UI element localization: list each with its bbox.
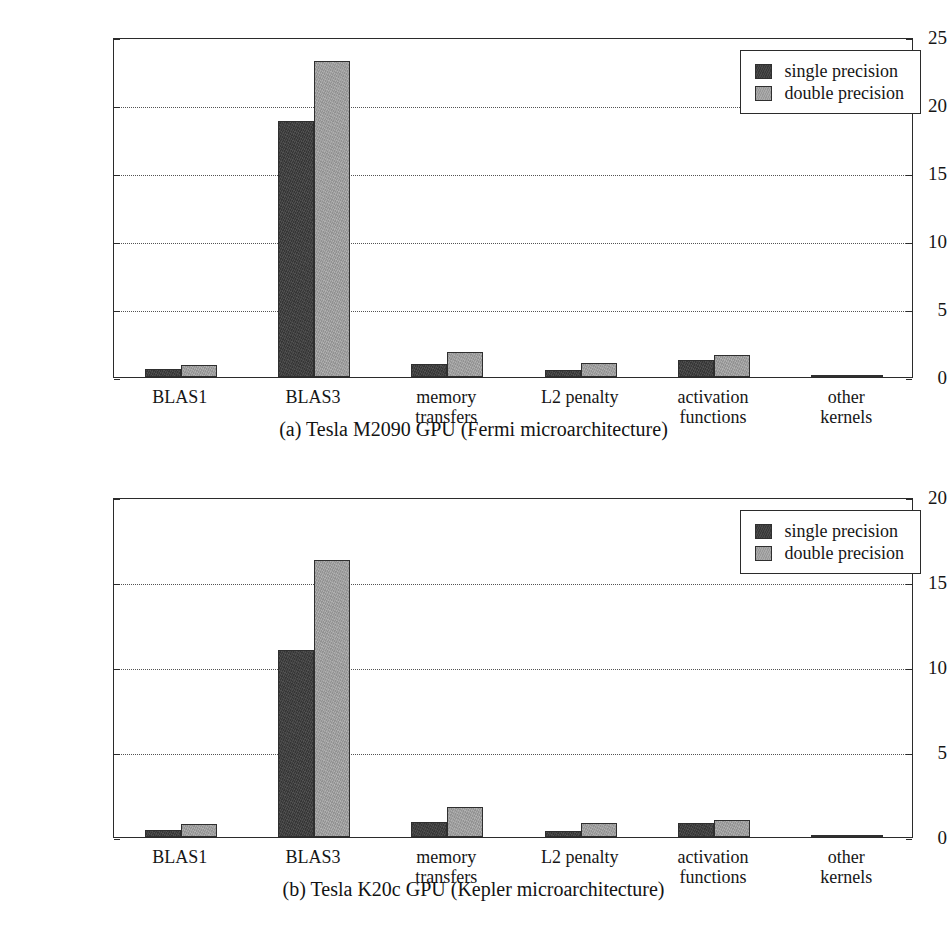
bar xyxy=(545,831,581,837)
legend-item: double precision xyxy=(755,82,904,104)
legend-label: double precision xyxy=(785,83,904,104)
chart-b: 05101520Execution time [s]BLAS1BLAS3memo… xyxy=(0,460,947,860)
y-tick-mark xyxy=(114,379,120,380)
bar xyxy=(314,560,350,837)
x-tick-label: BLAS1 xyxy=(113,387,246,407)
bar xyxy=(278,121,314,377)
bar xyxy=(714,355,750,377)
y-tick-label: 15 xyxy=(846,163,947,185)
y-tick-mark xyxy=(114,499,120,500)
bar xyxy=(678,360,714,377)
legend-swatch-single-precision xyxy=(755,64,772,79)
bar xyxy=(411,822,447,837)
bar xyxy=(181,824,217,837)
gridline-y xyxy=(114,175,912,176)
chart-a: 0510152025Execution time [s]BLAS1BLAS3me… xyxy=(0,0,947,400)
figure-two-gpu-execution-time-breakdown: 0510152025Execution time [s]BLAS1BLAS3me… xyxy=(0,0,947,931)
bar xyxy=(447,807,483,837)
legend-swatch-single-precision xyxy=(755,524,772,539)
bar xyxy=(811,835,847,837)
bar xyxy=(314,61,350,377)
y-tick-mark xyxy=(114,311,120,312)
y-tick-mark xyxy=(114,839,120,840)
bar xyxy=(278,650,314,837)
gridline-y xyxy=(114,311,912,312)
subfigure-caption: (a) Tesla M2090 GPU (Fermi microarchitec… xyxy=(0,418,947,441)
y-tick-label: 10 xyxy=(846,657,947,679)
legend-item: double precision xyxy=(755,542,904,564)
gridline-y xyxy=(114,243,912,244)
y-tick-label: 25 xyxy=(846,27,947,49)
subfigure-caption: (b) Tesla K20c GPU (Kepler microarchitec… xyxy=(0,878,947,901)
bar xyxy=(447,352,483,377)
legend-item: single precision xyxy=(755,60,904,82)
chart-legend: single precisiondouble precision xyxy=(740,50,921,114)
subfigure-b: 05101520Execution time [s]BLAS1BLAS3memo… xyxy=(0,460,947,931)
legend-label: single precision xyxy=(785,521,898,542)
y-tick-label: 20 xyxy=(846,487,947,509)
x-tick-label: BLAS1 xyxy=(113,847,246,867)
y-tick-label: 5 xyxy=(846,299,947,321)
y-tick-mark xyxy=(114,584,120,585)
bar xyxy=(581,823,617,837)
x-tick-label: BLAS3 xyxy=(246,847,379,867)
bar xyxy=(181,365,217,377)
legend-swatch-double-precision xyxy=(755,546,772,561)
x-tick-label: BLAS3 xyxy=(246,387,379,407)
legend-swatch-double-precision xyxy=(755,86,772,101)
y-tick-label: 10 xyxy=(846,231,947,253)
subfigure-a: 0510152025Execution time [s]BLAS1BLAS3me… xyxy=(0,0,947,460)
y-tick-mark xyxy=(114,243,120,244)
bar xyxy=(145,830,181,837)
bar xyxy=(714,820,750,837)
legend-label: double precision xyxy=(785,543,904,564)
bar xyxy=(545,370,581,377)
y-tick-label: 15 xyxy=(846,572,947,594)
x-tick-label: L2 penalty xyxy=(513,847,646,867)
legend-item: single precision xyxy=(755,520,904,542)
y-tick-mark xyxy=(114,754,120,755)
gridline-y xyxy=(114,754,912,755)
gridline-y xyxy=(114,584,912,585)
y-tick-label: 0 xyxy=(846,367,947,389)
gridline-y xyxy=(114,669,912,670)
bar xyxy=(581,363,617,377)
bar xyxy=(678,823,714,837)
bar xyxy=(411,364,447,377)
y-tick-mark xyxy=(114,39,120,40)
bar xyxy=(145,369,181,377)
chart-legend: single precisiondouble precision xyxy=(740,510,921,574)
y-tick-mark xyxy=(114,107,120,108)
y-tick-label: 0 xyxy=(846,827,947,849)
y-tick-mark xyxy=(114,175,120,176)
y-tick-label: 5 xyxy=(846,742,947,764)
y-tick-mark xyxy=(114,669,120,670)
legend-label: single precision xyxy=(785,61,898,82)
bar xyxy=(811,375,847,377)
x-tick-label: L2 penalty xyxy=(513,387,646,407)
